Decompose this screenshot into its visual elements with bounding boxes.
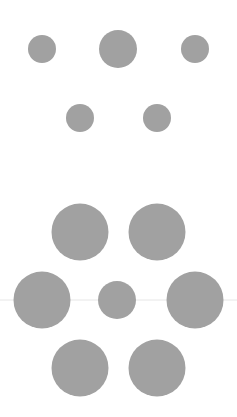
upper-circle-group — [28, 30, 209, 132]
lower-group-circle-6 — [52, 340, 109, 397]
lower-circle-group — [14, 204, 224, 397]
lower-group-circle-3 — [14, 272, 71, 329]
lower-group-circle-1 — [52, 204, 109, 261]
lower-group-circle-2 — [129, 204, 186, 261]
circle-diagram — [0, 0, 237, 417]
lower-group-circle-4 — [98, 281, 136, 319]
upper-group-circle-3 — [181, 35, 209, 63]
upper-group-circle-2 — [99, 30, 137, 68]
upper-group-circle-1 — [28, 35, 56, 63]
lower-group-circle-5 — [167, 272, 224, 329]
upper-group-circle-4 — [66, 104, 94, 132]
lower-group-circle-7 — [129, 340, 186, 397]
upper-group-circle-5 — [143, 104, 171, 132]
